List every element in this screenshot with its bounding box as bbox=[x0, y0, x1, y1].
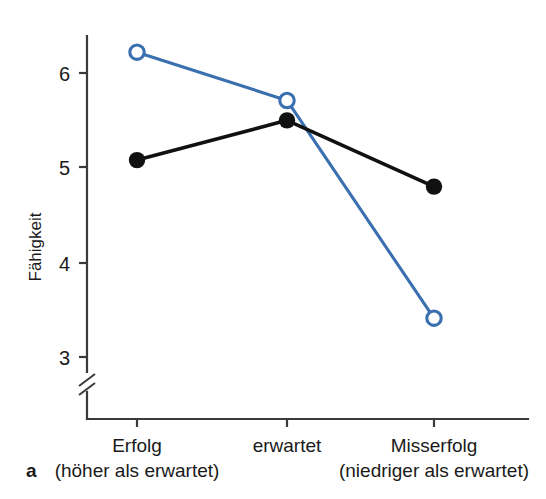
data-point-s2-1 bbox=[129, 152, 145, 168]
y-tick-label-4: 4 bbox=[59, 253, 70, 275]
line-chart: Fähigkeit 6 5 4 3 E bbox=[0, 0, 546, 499]
series-line-2 bbox=[137, 120, 434, 186]
x-tick-sublabel-erfolg: (höher als erwartet) bbox=[55, 460, 220, 481]
panel-label: a bbox=[26, 460, 37, 481]
data-point-s1-1 bbox=[130, 45, 144, 59]
figure-panel-a: Fähigkeit 6 5 4 3 E bbox=[0, 0, 546, 499]
data-point-s2-3 bbox=[426, 178, 442, 194]
y-axis-title: Fähigkeit bbox=[26, 212, 45, 281]
x-tick-labels: Erfolg (höher als erwartet) erwartet Mis… bbox=[55, 435, 529, 481]
y-tick-group bbox=[79, 73, 87, 357]
y-tick-labels: 6 5 4 3 bbox=[59, 63, 70, 369]
y-tick-label-6: 6 bbox=[59, 63, 70, 85]
series-layer bbox=[129, 45, 442, 325]
data-point-s1-3 bbox=[427, 311, 441, 325]
x-tick-group bbox=[137, 419, 434, 427]
x-tick-label-erfolg: Erfolg bbox=[112, 435, 162, 456]
x-tick-sublabel-misserfolg: (niedriger als erwartet) bbox=[339, 460, 529, 481]
x-tick-label-erwartet: erwartet bbox=[253, 435, 322, 456]
data-point-s1-2 bbox=[280, 93, 294, 107]
y-tick-label-5: 5 bbox=[59, 157, 70, 179]
data-point-s2-2 bbox=[279, 112, 295, 128]
y-tick-label-3: 3 bbox=[59, 347, 70, 369]
x-tick-label-misserfolg: Misserfolg bbox=[391, 435, 478, 456]
